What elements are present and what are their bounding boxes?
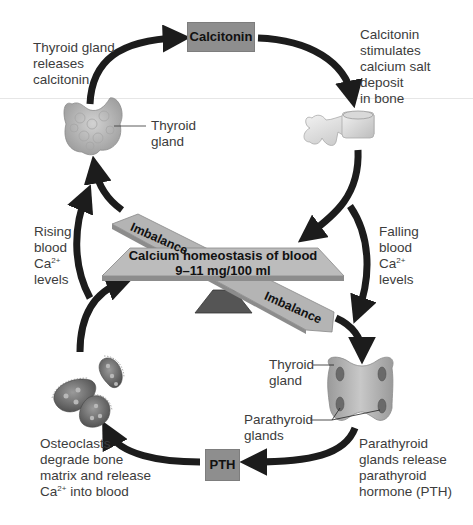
calcitonin-stimulates-label: Calcitonin stimulates calcium salt depos… bbox=[360, 27, 431, 107]
arrow-imbalance-to-parathyroid bbox=[336, 318, 362, 352]
arrow-imbalance-to-thyroid bbox=[95, 168, 122, 210]
thyroid-gland-label-bottom: Thyroid gland bbox=[269, 357, 314, 389]
arrow-bone-to-balance bbox=[308, 150, 358, 235]
thyroid-releases-label: Thyroid gland releases calcitonin bbox=[33, 40, 115, 88]
thyroid-gland-illustration-top bbox=[64, 98, 146, 155]
calcitonin-box: Calcitonin bbox=[187, 22, 255, 52]
arrow-falling-calcium bbox=[350, 206, 367, 312]
calcium-homeostasis-diagram: Calcitonin PTH Calcium homeostasis of bl… bbox=[0, 0, 473, 525]
falling-calcium-label: Falling blood Ca2+ levels bbox=[379, 224, 419, 288]
homeostasis-title: Calcium homeostasis of blood bbox=[108, 248, 338, 263]
parathyroid-glands-label: Parathyroid glands bbox=[244, 412, 313, 444]
thyroid-parathyroid-illustration bbox=[310, 357, 393, 420]
bone-vertebra-illustration bbox=[304, 111, 374, 145]
arrow-rising-calcium bbox=[77, 196, 90, 298]
osteoclasts-label: Osteoclasts degrade bone matrix and rele… bbox=[40, 436, 151, 500]
homeostasis-label: Calcium homeostasis of blood 9–11 mg/100… bbox=[108, 248, 338, 278]
arrow-calcitonin-to-bone bbox=[258, 38, 352, 96]
pth-label: PTH bbox=[210, 457, 236, 472]
rising-calcium-label: Rising blood Ca2+ levels bbox=[34, 224, 72, 288]
parathyroid-release-label: Parathyroid glands release parathyroid h… bbox=[359, 436, 452, 500]
homeostasis-range: 9–11 mg/100 ml bbox=[108, 263, 338, 278]
osteoclasts-illustration bbox=[52, 356, 124, 427]
calcitonin-label: Calcitonin bbox=[190, 29, 253, 44]
thyroid-gland-label-top: Thyroid gland bbox=[151, 118, 196, 150]
pth-box: PTH bbox=[205, 449, 240, 481]
